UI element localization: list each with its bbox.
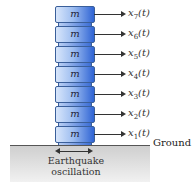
displacement-label-2: x2(t): [128, 107, 150, 121]
double-arrow-icon: [57, 151, 91, 152]
displacement-label-5: x5(t): [128, 47, 150, 61]
mass-label: m: [56, 28, 94, 39]
displacement-label-7: x7(t): [128, 7, 150, 21]
mass-block-2: m: [55, 106, 95, 123]
mass-label: m: [56, 108, 94, 119]
mass-label: m: [56, 128, 94, 139]
mass-label: m: [56, 48, 94, 59]
displacement-label-1: x1(t): [128, 127, 150, 141]
oscillation-label-line2: oscillation: [40, 166, 112, 177]
mass-block-7: m: [55, 6, 95, 23]
displacement-label-3: x3(t): [128, 87, 150, 101]
displacement-arrow-icon: [94, 14, 124, 15]
ground-label: Ground: [153, 137, 191, 148]
displacement-arrow-icon: [94, 54, 124, 55]
oscillation-label-line1: Earthquake: [40, 155, 112, 166]
mass-block-4: m: [55, 66, 95, 83]
displacement-arrow-icon: [94, 74, 124, 75]
mass-label: m: [56, 88, 94, 99]
mass-block-5: m: [55, 46, 95, 63]
displacement-arrow-icon: [94, 134, 124, 135]
displacement-arrow-icon: [94, 34, 124, 35]
displacement-arrow-icon: [94, 94, 124, 95]
mass-label: m: [56, 8, 94, 19]
mass-block-3: m: [55, 86, 95, 103]
displacement-label-4: x4(t): [128, 67, 150, 81]
oscillation-label: Earthquake oscillation: [40, 155, 112, 177]
mass-block-6: m: [55, 26, 95, 43]
mass-block-1: m: [55, 126, 95, 143]
mass-label: m: [56, 68, 94, 79]
displacement-arrow-icon: [94, 114, 124, 115]
displacement-label-6: x6(t): [128, 27, 150, 41]
